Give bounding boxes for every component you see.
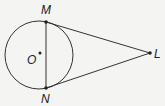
tangent-ml xyxy=(46,22,150,53)
tangent-nl xyxy=(46,53,150,88)
circle-o xyxy=(5,21,73,89)
tangent-diagram: M N L O xyxy=(0,0,165,106)
label-m: M xyxy=(41,3,51,17)
label-l: L xyxy=(154,47,161,61)
point-m xyxy=(44,20,48,24)
label-n: N xyxy=(41,92,50,106)
point-l xyxy=(148,51,152,55)
point-o xyxy=(39,52,42,55)
label-o: O xyxy=(27,53,36,67)
point-n xyxy=(44,86,48,90)
